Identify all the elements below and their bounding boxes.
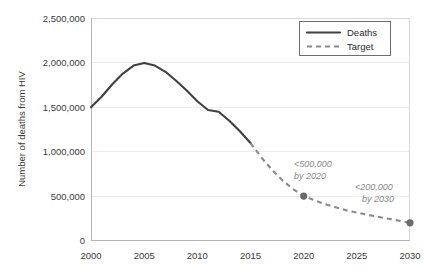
y-tick-label-2: 1,000,000 bbox=[43, 146, 85, 157]
x-tick-label-0: 2000 bbox=[80, 250, 101, 261]
marker-2020 bbox=[300, 193, 307, 200]
annotation-2030: <200,000 by 2030 bbox=[355, 182, 394, 204]
annotation-2020-line1: <500,000 bbox=[294, 159, 332, 169]
hiv-deaths-chart: 2,500,000 2,000,000 1,500,000 1,000,000 … bbox=[0, 0, 424, 276]
annotation-2020: <500,000 by 2020 bbox=[294, 159, 332, 181]
y-tick-label-4: 2,000,000 bbox=[43, 57, 85, 68]
annotation-2020-line2: by 2020 bbox=[294, 171, 326, 181]
x-tick-label-3: 2015 bbox=[240, 250, 261, 261]
chart-canvas: 2,500,000 2,000,000 1,500,000 1,000,000 … bbox=[0, 0, 424, 276]
x-tick-label-2: 2010 bbox=[187, 250, 208, 261]
x-tick-label-6: 2030 bbox=[399, 250, 420, 261]
y-tick-label-3: 1,500,000 bbox=[43, 102, 85, 113]
y-tick-label-1: 500,000 bbox=[51, 191, 85, 202]
chart-legend[interactable]: Deaths Target bbox=[300, 22, 391, 56]
legend-label-deaths: Deaths bbox=[347, 27, 377, 38]
deaths-line bbox=[91, 63, 251, 143]
x-tick-label-4: 2020 bbox=[293, 250, 314, 261]
x-tick-label-5: 2025 bbox=[346, 250, 367, 261]
y-tick-label-5: 2,500,000 bbox=[43, 13, 85, 24]
marker-2030 bbox=[406, 219, 413, 226]
y-tick-label-0: 0 bbox=[80, 235, 85, 246]
x-axis-tick-labels: 2000 2005 2010 2015 2020 2025 2030 bbox=[80, 250, 420, 261]
annotation-2030-line2: by 2030 bbox=[362, 194, 394, 204]
y-axis-tick-labels: 2,500,000 2,000,000 1,500,000 1,000,000 … bbox=[43, 13, 85, 246]
annotation-2030-line1: <200,000 bbox=[355, 182, 393, 192]
legend-label-target: Target bbox=[347, 41, 374, 52]
x-tick-label-1: 2005 bbox=[134, 250, 155, 261]
y-axis-title: Number of deaths from HIV bbox=[16, 71, 27, 187]
